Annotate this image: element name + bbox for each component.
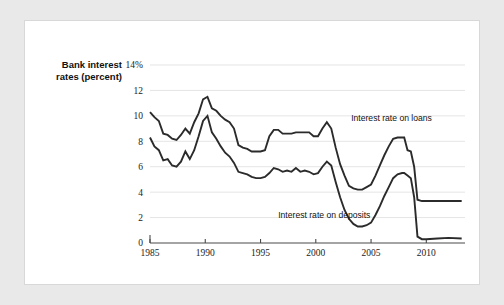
y-axis-tick-label: 12 <box>134 86 144 96</box>
series-annotation-label: Interest rate on loans <box>351 113 432 123</box>
bank-interest-rates-chart: 02468101214%Bank interestrates (percent)… <box>25 21 481 286</box>
x-axis-tick-label: 2010 <box>417 248 436 258</box>
y-axis-tick-label: 0 <box>138 238 143 248</box>
x-axis-tick-label: 1985 <box>141 248 160 258</box>
y-axis-tick-label: 2 <box>138 213 143 223</box>
y-axis-title-line1: Bank interest <box>62 59 123 70</box>
y-axis-tick-label: 14% <box>126 60 144 70</box>
x-axis-tick-label: 1995 <box>251 248 270 258</box>
y-axis-tick-label: 8 <box>138 137 143 147</box>
x-axis-tick-label: 2000 <box>306 248 325 258</box>
x-axis-tick-label: 1990 <box>196 248 215 258</box>
y-axis-tick-label: 4 <box>138 188 143 198</box>
figure-card: 02468101214%Bank interestrates (percent)… <box>24 20 480 285</box>
x-axis-tick-label: 2005 <box>362 248 381 258</box>
y-axis-tick-label: 6 <box>138 162 143 172</box>
y-axis-tick-label: 10 <box>134 111 144 121</box>
series-annotation-label: Interest rate on deposits <box>278 210 370 220</box>
y-axis-title-line2: rates (percent) <box>56 71 122 82</box>
